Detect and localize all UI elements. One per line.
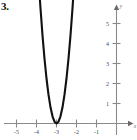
- parabola-curve: [40, 0, 74, 124]
- y-axis-arrowhead: [114, 5, 119, 11]
- figure-container: 3. -5 -4 -3 -2 -1: [0, 0, 137, 140]
- x-tick-label--3: -3: [54, 129, 59, 135]
- y-tick-label-2: 2: [106, 81, 109, 87]
- y-tick-label-3: 3: [106, 61, 109, 67]
- x-axis-label: x: [133, 123, 137, 129]
- x-tick-label--5: -5: [14, 129, 19, 135]
- x-tick-label--2: -2: [74, 129, 79, 135]
- x-tick-label--1: -1: [94, 129, 99, 135]
- y-tick-label-1: 1: [106, 101, 109, 107]
- parabola-plot: -5 -4 -3 -2 -1 1 2 3 4 5 x y: [0, 0, 137, 140]
- y-axis-label: y: [119, 3, 123, 9]
- y-tick-label-4: 4: [106, 41, 109, 47]
- y-tick-label-5: 5: [106, 21, 109, 27]
- x-axis-arrowhead: [128, 121, 134, 126]
- x-tick-label--4: -4: [34, 129, 39, 135]
